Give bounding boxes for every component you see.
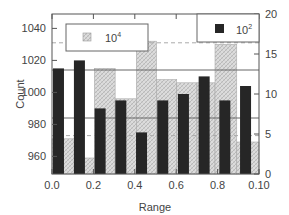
y-tick-label: 960 <box>28 150 46 162</box>
x-tick-label: 0.0 <box>44 179 59 191</box>
x-tick-label: 0.2 <box>86 179 101 191</box>
y-tick-label: 1040 <box>22 22 46 34</box>
x-tick-label: 0.8 <box>210 179 225 191</box>
bar-10e2 <box>178 94 189 174</box>
legend-10e4: 104 <box>66 24 148 51</box>
legend-dark-swatch-icon <box>215 24 224 33</box>
bar-10e2 <box>199 76 210 174</box>
bar-10e2 <box>74 60 85 174</box>
x-tick-label: 0.6 <box>169 179 184 191</box>
y2-tick-label: 10 <box>265 88 277 100</box>
bar-10e2 <box>219 100 230 174</box>
x-tick-label: 0.10 <box>248 179 269 191</box>
bar-10e2 <box>115 100 126 174</box>
y2-tick-label: 5 <box>265 128 271 140</box>
y2-tick-label: 20 <box>265 8 277 20</box>
legend-hatched-swatch-icon <box>83 33 91 41</box>
x-tick-label: 0.4 <box>127 179 142 191</box>
y-tick-label: 1020 <box>22 54 46 66</box>
y2-tick-label: 15 <box>265 48 277 60</box>
y-tick-label: 980 <box>28 118 46 130</box>
x-axis-title: Range <box>139 201 171 213</box>
bar-10e2 <box>136 132 147 174</box>
legend-10e2: 102 <box>197 14 259 42</box>
bar-10e2 <box>240 86 251 174</box>
bar-10e2 <box>157 100 168 174</box>
chart: 960980100010201040051015200.00.20.40.60.… <box>0 0 289 215</box>
y-axis-title: Count <box>14 79 26 108</box>
bar-10e2 <box>95 108 106 174</box>
bar-10e2 <box>53 68 64 174</box>
